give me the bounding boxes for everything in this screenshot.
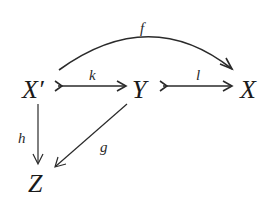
arrow-f [59, 37, 232, 70]
node-z: Z [28, 169, 43, 198]
node-y: Y [132, 75, 149, 104]
commutative-diagram: X′ Y X Z f k l h g [0, 0, 279, 208]
arrow-g-path [56, 104, 127, 166]
label-f: f [140, 20, 146, 36]
node-x-prime: X′ [21, 75, 44, 104]
label-h: h [18, 130, 26, 146]
arrow-f-path [59, 37, 232, 70]
arrow-g [55, 104, 127, 167]
label-l: l [196, 67, 200, 83]
arrow-h [33, 104, 43, 164]
label-k: k [89, 67, 96, 83]
node-x: X [239, 75, 257, 104]
label-g: g [100, 139, 108, 155]
